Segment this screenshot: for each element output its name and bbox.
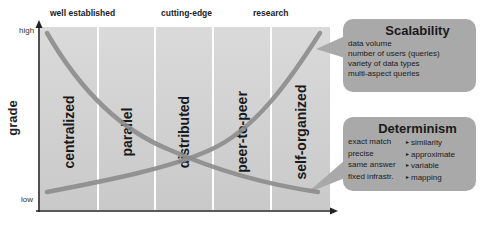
determinism-left: precise [348,149,406,161]
scalability-callout: Scalability data volume number of users … [343,19,476,92]
determinism-left: fixed infrastr. [348,172,406,184]
determinism-callout: Determinism exact match ▸similarity prec… [343,117,476,191]
determinism-title: Determinism [359,121,476,136]
bullet-icon: ▸ [406,151,409,157]
bullet-icon: ▸ [406,139,409,145]
scalability-title: Scalability [359,23,476,38]
scalability-curve [47,33,320,192]
x-axis-arrow-icon [330,208,338,215]
determinism-left: exact match [348,137,406,149]
determinism-right-text: approximate [411,150,455,159]
determinism-right-text: variable [411,161,439,170]
scalability-callout-tail [316,36,345,58]
bullet-icon: ▸ [406,174,409,180]
y-axis-arrow-icon [36,20,43,28]
determinism-table: exact match ▸similarity precise ▸approxi… [348,137,476,183]
scalability-list: data volume number of users (queries) va… [348,39,476,79]
determinism-right: ▸mapping [406,172,476,184]
determinism-right: ▸similarity [406,137,476,149]
determinism-callout-tail [307,160,345,193]
determinism-right-text: similarity [411,138,442,147]
determinism-curve [47,33,318,192]
scalability-item: variety of data types [348,59,476,69]
determinism-right: ▸variable [406,160,476,172]
scalability-item: multi-aspect queries [348,69,476,79]
scalability-item: data volume [348,39,476,49]
determinism-right: ▸approximate [406,149,476,161]
determinism-left: same answer [348,160,406,172]
scalability-item: number of users (queries) [348,49,476,59]
determinism-right-text: mapping [411,173,442,182]
bullet-icon: ▸ [406,162,409,168]
